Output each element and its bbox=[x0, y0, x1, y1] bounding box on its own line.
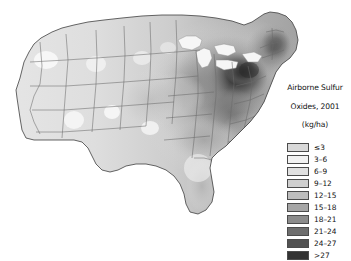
legend-label: >27 bbox=[314, 251, 330, 260]
map-svg bbox=[0, 0, 312, 232]
legend-label: 18–21 bbox=[314, 215, 337, 224]
legend-swatch bbox=[287, 203, 309, 213]
legend-label: 21–24 bbox=[314, 227, 337, 236]
legend-title-line-3: (kg/ha) bbox=[279, 120, 351, 129]
legend-swatch bbox=[287, 239, 309, 249]
legend-item: 15–18 bbox=[287, 201, 351, 213]
legend-title: Airborne Sulfur Oxides, 2001 (kg/ha) bbox=[279, 74, 351, 138]
legend-label: 15–18 bbox=[314, 203, 337, 212]
legend-label: 24–27 bbox=[314, 239, 337, 248]
legend-label: 3–6 bbox=[314, 155, 327, 164]
legend-title-line-1: Airborne Sulfur bbox=[279, 83, 351, 92]
legend-swatch bbox=[287, 251, 309, 261]
legend-swatch bbox=[287, 179, 309, 189]
legend-item: 24–27 bbox=[287, 237, 351, 249]
map-legend: Airborne Sulfur Oxides, 2001 (kg/ha) ≤3 … bbox=[279, 74, 351, 261]
legend-item: 18–21 bbox=[287, 213, 351, 225]
legend-item: 6–9 bbox=[287, 165, 351, 177]
legend-swatch bbox=[287, 191, 309, 201]
legend-label: ≤3 bbox=[314, 143, 325, 152]
legend-label: 12–15 bbox=[314, 191, 337, 200]
legend-item: 3–6 bbox=[287, 153, 351, 165]
legend-item: ≤3 bbox=[287, 141, 351, 153]
legend-swatch bbox=[287, 143, 309, 153]
legend-items: ≤3 3–6 6–9 9–12 12–15 15–18 bbox=[279, 141, 351, 261]
legend-item: 21–24 bbox=[287, 225, 351, 237]
legend-item: 12–15 bbox=[287, 189, 351, 201]
legend-swatch bbox=[287, 155, 309, 165]
legend-item: >27 bbox=[287, 249, 351, 261]
legend-swatch bbox=[287, 215, 309, 225]
legend-label: 9–12 bbox=[314, 179, 332, 188]
legend-swatch bbox=[287, 227, 309, 237]
legend-item: 9–12 bbox=[287, 177, 351, 189]
choropleth-map bbox=[0, 0, 312, 232]
legend-title-line-2: Oxides, 2001 bbox=[279, 102, 351, 111]
legend-swatch bbox=[287, 167, 309, 177]
legend-label: 6–9 bbox=[314, 167, 327, 176]
